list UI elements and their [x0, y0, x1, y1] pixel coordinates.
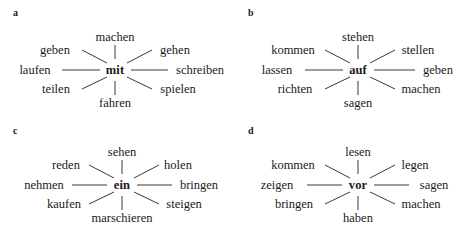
node-bottom-d: haben [343, 212, 373, 225]
node-left-c: nehmen [24, 179, 64, 192]
spoke-bottom-left [89, 192, 114, 204]
node-bottom-right-a: spielen [160, 83, 195, 96]
node-bottom-b: sagen [344, 97, 372, 110]
node-bottom-left-c: kaufen [47, 198, 81, 211]
spoke-top-right [370, 50, 395, 63]
node-bottom-left-d: bringen [275, 198, 313, 211]
radial-graph-d: vor lesen kommen zeigen bringen haben ma… [235, 118, 470, 235]
radial-graph-b: auf stehen kommen lassen richten sagen m… [235, 0, 470, 117]
spoke-bottom-left [325, 192, 350, 204]
node-right-a: schreiben [176, 64, 224, 77]
node-top-b: stehen [342, 31, 374, 44]
hub-node-a: mit [106, 64, 124, 77]
node-top-a: machen [96, 31, 135, 44]
node-bottom-right-c: steigen [166, 198, 201, 211]
node-top-left-a: geben [40, 44, 70, 57]
node-top-right-b: stellen [402, 44, 435, 57]
node-bottom-right-b: machen [402, 83, 441, 96]
node-bottom-left-a: teilen [42, 83, 70, 96]
node-top-c: sehen [108, 146, 136, 159]
diagram-panel-d: d vor lesen kommen zeigen bringen haben … [235, 118, 470, 235]
node-bottom-c: marschieren [91, 212, 152, 225]
spoke-bottom-right [370, 192, 395, 204]
node-bottom-a: fahren [99, 97, 131, 110]
diagram-panel-b: b auf stehen kommen lassen richten sagen… [235, 0, 470, 117]
spoke-bottom-left [82, 77, 107, 89]
spoke-top-left [89, 165, 114, 178]
node-top-right-c: holen [164, 159, 192, 172]
diagram-panel-a: a mit machen geben laufen teilen fahren … [0, 0, 235, 117]
spoke-top-left [325, 50, 350, 63]
node-top-right-a: gehen [160, 44, 190, 57]
node-top-left-c: reden [52, 159, 80, 172]
spoke-top-right [370, 165, 395, 178]
node-left-a: laufen [19, 64, 50, 77]
hub-node-b: auf [349, 64, 367, 77]
node-top-right-d: legen [401, 159, 428, 172]
node-top-d: lesen [345, 146, 371, 159]
radial-graph-a: mit machen geben laufen teilen fahren sp… [0, 0, 235, 117]
node-right-c: bringen [180, 179, 218, 192]
spoke-top-right [127, 50, 152, 63]
diagram-panel-c: c ein sehen reden nehmen kaufen marschie… [0, 118, 235, 235]
node-bottom-right-d: machen [402, 198, 441, 211]
hub-node-c: ein [114, 179, 130, 192]
spoke-bottom-right [127, 77, 152, 89]
node-bottom-left-b: richten [278, 83, 313, 96]
node-right-d: sagen [420, 179, 448, 192]
node-top-left-b: kommen [271, 44, 315, 57]
spoke-bottom-left [325, 77, 350, 89]
hub-node-d: vor [349, 179, 367, 192]
spoke-top-left [325, 165, 350, 178]
node-left-b: lassen [262, 64, 293, 77]
node-right-b: geben [423, 64, 453, 77]
node-top-left-d: kommen [271, 159, 315, 172]
radial-graph-c: ein sehen reden nehmen kaufen marschiere… [0, 118, 235, 235]
spoke-top-right [134, 165, 159, 178]
spoke-bottom-right [134, 192, 159, 204]
spoke-top-left [82, 50, 107, 63]
spoke-bottom-right [370, 77, 395, 89]
node-left-d: zeigen [261, 179, 294, 192]
